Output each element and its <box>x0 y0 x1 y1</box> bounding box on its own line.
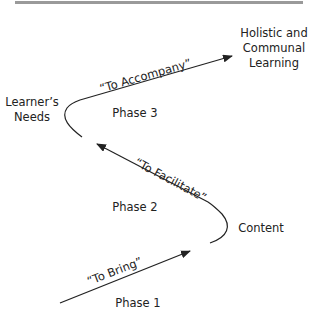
node-learners-needs: Learner’s Needs <box>2 95 62 125</box>
phase-2-label: Phase 2 <box>110 200 160 215</box>
node-line: Communal <box>238 41 310 56</box>
node-line: Learner’s <box>2 95 62 110</box>
node-line: Holistic and <box>238 26 310 41</box>
node-content: Content <box>236 221 286 236</box>
learners-needs-curve <box>65 100 82 137</box>
node-line: Learning <box>238 56 310 71</box>
phase-1-label: Phase 1 <box>113 296 163 311</box>
phase-3-label: Phase 3 <box>110 106 160 121</box>
content-curve <box>208 202 227 243</box>
node-line: Needs <box>2 110 62 125</box>
node-holistic-learning: Holistic and Communal Learning <box>238 26 310 71</box>
